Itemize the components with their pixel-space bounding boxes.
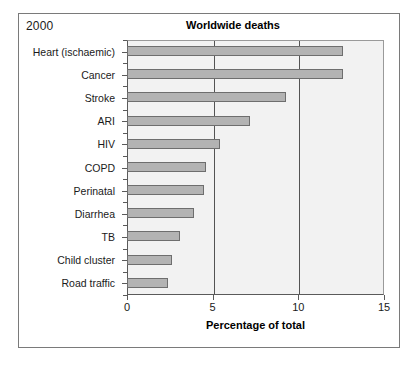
bar[interactable] [127, 255, 172, 265]
bar-row [127, 156, 384, 179]
x-axis-tick-label: 10 [292, 301, 304, 313]
bar-row [127, 63, 384, 86]
y-axis-label: COPD [85, 162, 115, 174]
x-axis-tick-label: 0 [124, 301, 130, 313]
bar-row [127, 110, 384, 133]
bar-row [127, 272, 384, 295]
bar-row [127, 202, 384, 225]
bar-row [127, 225, 384, 248]
bar-row [127, 179, 384, 202]
y-axis-label: Heart (ischaemic) [33, 46, 115, 58]
bar[interactable] [127, 231, 180, 241]
y-axis-label: Cancer [81, 69, 115, 81]
y-axis-label: Stroke [85, 92, 115, 104]
x-axis-tick-label: 15 [378, 301, 390, 313]
bar[interactable] [127, 185, 204, 195]
bar-row [127, 40, 384, 63]
chart-title: Worldwide deaths [19, 19, 399, 31]
y-axis-label: Perinatal [74, 185, 115, 197]
bar[interactable] [127, 92, 286, 102]
y-axis-label: Child cluster [57, 254, 115, 266]
x-axis-tick [213, 295, 214, 300]
bar[interactable] [127, 162, 206, 172]
y-axis-label: TB [102, 231, 115, 243]
y-axis-label: ARI [97, 115, 115, 127]
x-axis-tick-label: 5 [210, 301, 216, 313]
x-axis-tick [127, 295, 128, 300]
y-axis-label: Road traffic [62, 277, 116, 289]
chart-figure: 2000 Worldwide deaths Heart (ischaemic)C… [18, 13, 400, 348]
bar[interactable] [127, 69, 343, 79]
bar-row [127, 133, 384, 156]
bar[interactable] [127, 278, 168, 288]
x-axis-tick [384, 295, 385, 300]
x-axis-title: Percentage of total [127, 319, 384, 331]
bar[interactable] [127, 116, 250, 126]
bar[interactable] [127, 46, 343, 56]
y-axis-label: Diarrhea [75, 208, 115, 220]
bar-row [127, 249, 384, 272]
bar-row [127, 86, 384, 109]
x-axis-tick [298, 295, 299, 300]
bar[interactable] [127, 208, 194, 218]
bar[interactable] [127, 139, 220, 149]
y-axis-label: HIV [97, 138, 115, 150]
